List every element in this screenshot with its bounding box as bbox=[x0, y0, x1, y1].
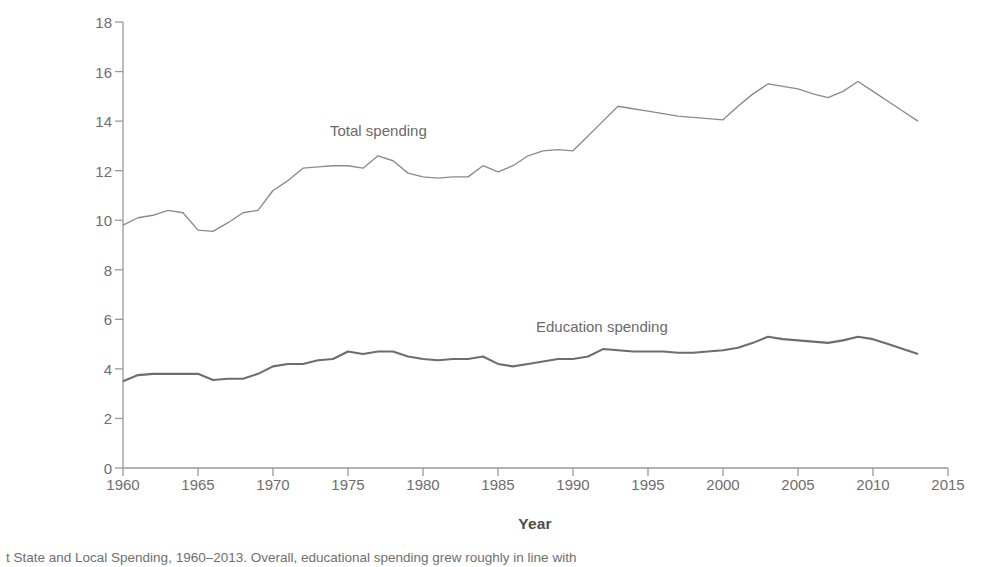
x-tick-label: 2015 bbox=[918, 476, 978, 493]
x-tick-label: 1960 bbox=[93, 476, 153, 493]
education-spending-label: Education spending bbox=[536, 318, 668, 335]
x-tick-label: 1995 bbox=[618, 476, 678, 493]
x-axis-title: Year bbox=[122, 515, 948, 533]
x-tick-label: 1985 bbox=[468, 476, 528, 493]
x-tick-label: 1970 bbox=[243, 476, 303, 493]
figure-caption: t State and Local Spending, 1960–2013. O… bbox=[6, 549, 984, 567]
education-spending-line bbox=[123, 337, 918, 382]
axes bbox=[123, 22, 948, 468]
total-spending-label: Total spending bbox=[330, 122, 427, 139]
total-spending-line bbox=[123, 81, 918, 231]
x-tick-label: 1990 bbox=[543, 476, 603, 493]
x-tick-label: 1965 bbox=[168, 476, 228, 493]
x-tick-label: 2000 bbox=[693, 476, 753, 493]
x-tick-label: 1980 bbox=[393, 476, 453, 493]
x-tick-label: 2010 bbox=[843, 476, 903, 493]
y-axis-ticks bbox=[115, 22, 123, 468]
x-axis-ticks bbox=[123, 468, 948, 476]
x-tick-label: 2005 bbox=[768, 476, 828, 493]
x-tick-label: 1975 bbox=[318, 476, 378, 493]
